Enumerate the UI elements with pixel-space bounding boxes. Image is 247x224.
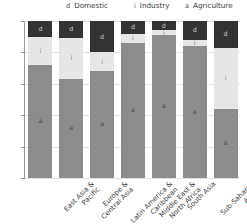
bar-segment-domestic[interactable]: d — [28, 21, 52, 37]
legend-item-industry: i Industry — [134, 1, 169, 10]
bar-group[interactable]: aid — [28, 21, 52, 178]
bar-segment-agriculture[interactable]: a — [90, 71, 114, 178]
bar-group[interactable]: aid — [90, 21, 114, 178]
bar-segment-domestic[interactable]: d — [90, 21, 114, 52]
segment-marker-a: a — [69, 125, 73, 131]
segment-marker-d: d — [100, 34, 104, 40]
segment-marker-a: a — [162, 103, 166, 109]
bar-group[interactable]: aid — [214, 21, 238, 178]
y-tick-mark-0 — [21, 178, 24, 179]
bar-segment-agriculture[interactable]: a — [152, 35, 176, 178]
bar-segment-domestic[interactable]: d — [59, 21, 83, 38]
bar-segment-agriculture[interactable]: a — [28, 65, 52, 178]
bar-segment-agriculture[interactable]: a — [121, 43, 145, 178]
legend-key-domestic: d — [66, 2, 70, 10]
bar-group[interactable]: aid — [121, 21, 145, 178]
bar-segment-domestic[interactable]: d — [152, 21, 176, 30]
stacked-bar-chart: d Domestic i Industry a Agriculture 0204… — [0, 0, 247, 224]
segment-marker-a: a — [38, 118, 42, 124]
legend-item-domestic: d Domestic — [66, 1, 108, 10]
legend-label-domestic: Domestic — [74, 1, 108, 10]
bar-series-layer: aidaidaidaidaidaidaid — [24, 21, 240, 178]
segment-marker-d: d — [224, 31, 228, 37]
plot-area: 020406080100 aidaidaidaidaidaidaid — [24, 21, 240, 178]
legend-key-industry: i — [134, 2, 136, 10]
bar-group[interactable]: aid — [152, 21, 176, 178]
bar-segment-agriculture[interactable]: a — [183, 46, 207, 178]
bar-segment-agriculture[interactable]: a — [59, 79, 83, 178]
bar-segment-industry[interactable]: i — [121, 34, 145, 43]
chart-legend: d Domestic i Industry a Agriculture — [0, 1, 247, 16]
segment-marker-i: i — [101, 59, 103, 65]
segment-marker-d: d — [193, 27, 197, 33]
segment-marker-i: i — [132, 35, 134, 41]
x-axis-labels: East Asia &PacificEurope &Central AsiaLa… — [24, 180, 240, 224]
segment-marker-a: a — [224, 140, 228, 146]
legend-key-agriculture: a — [185, 2, 189, 10]
x-axis-label: Sub-SaharanAfrica — [219, 180, 247, 223]
segment-marker-i: i — [225, 75, 227, 81]
segment-marker-a: a — [100, 121, 104, 127]
segment-marker-d: d — [38, 26, 42, 32]
x-axis-label: Europe &Central Asia — [95, 180, 136, 221]
bar-segment-industry[interactable]: i — [90, 52, 114, 71]
bar-segment-industry[interactable]: i — [183, 40, 207, 46]
bar-group[interactable]: aid — [59, 21, 83, 178]
bar-segment-agriculture[interactable]: a — [214, 109, 238, 178]
segment-marker-i: i — [194, 40, 196, 46]
bar-segment-industry[interactable]: i — [152, 30, 176, 35]
segment-marker-d: d — [162, 23, 166, 29]
segment-marker-d: d — [69, 26, 73, 32]
x-axis-label: East Asia &Pacific — [63, 180, 102, 219]
segment-marker-i: i — [70, 55, 72, 61]
segment-marker-i: i — [40, 48, 42, 54]
legend-item-agriculture: a Agriculture — [185, 1, 233, 10]
bar-segment-domestic[interactable]: d — [121, 21, 145, 34]
segment-marker-a: a — [193, 109, 197, 115]
legend-label-agriculture: Agriculture — [193, 1, 233, 10]
legend-label-industry: Industry — [140, 1, 170, 10]
bar-segment-industry[interactable]: i — [59, 38, 83, 79]
bar-group[interactable]: aid — [183, 21, 207, 178]
segment-marker-a: a — [131, 107, 135, 113]
segment-marker-d: d — [131, 24, 135, 30]
gridline-0 — [25, 178, 240, 179]
segment-marker-i: i — [163, 30, 165, 36]
bar-segment-domestic[interactable]: d — [183, 21, 207, 40]
bar-segment-domestic[interactable]: d — [214, 21, 238, 48]
bar-segment-industry[interactable]: i — [28, 37, 52, 65]
bar-segment-industry[interactable]: i — [214, 48, 238, 109]
